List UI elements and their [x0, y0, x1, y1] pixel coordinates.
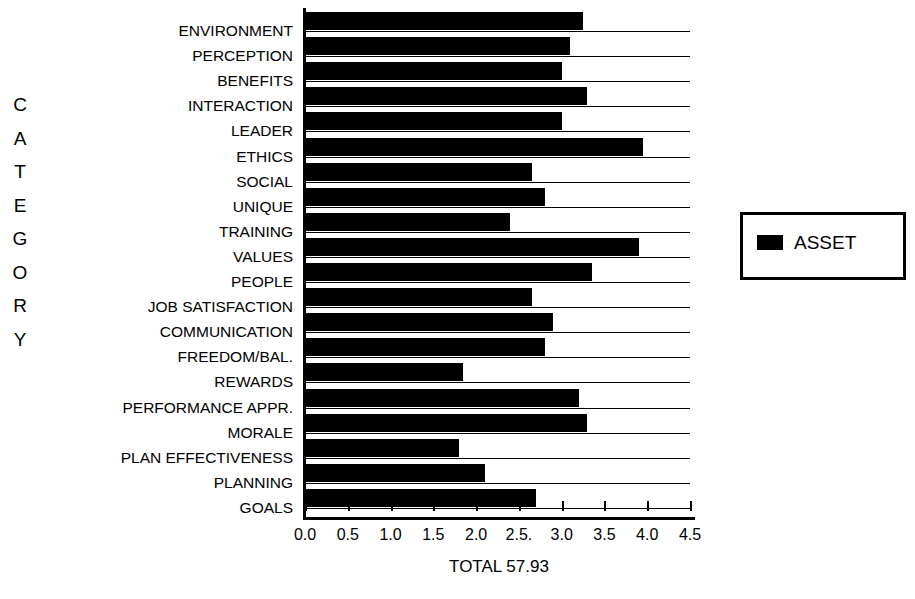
x-axis-tick-label: 2.0 — [465, 526, 487, 544]
bar-baseline — [305, 81, 690, 82]
bar-chart-figure: C A T E G O R Y ENVIRONMENTPERCEPTIONBEN… — [0, 0, 915, 599]
bar-row — [305, 338, 695, 363]
bar-baseline — [305, 106, 690, 107]
y-axis-title-letter: Y — [4, 323, 36, 357]
y-axis-tick-label: PLANNING — [214, 475, 293, 491]
y-axis-tick-label: UNIQUE — [233, 199, 293, 215]
y-axis-title-letter: G — [4, 222, 36, 256]
bar-baseline — [305, 382, 690, 383]
bar-row — [305, 313, 695, 338]
bar-baseline — [305, 257, 690, 258]
x-axis-tick — [604, 501, 606, 511]
bar-row — [305, 464, 695, 489]
bar-asset — [305, 489, 536, 507]
x-axis-tick-label: 4.5 — [679, 526, 701, 544]
bar-asset — [305, 363, 463, 381]
bar-asset — [305, 87, 587, 105]
x-axis-tick-label: 3.0 — [551, 526, 573, 544]
bar-asset — [305, 163, 532, 181]
bar-baseline — [305, 357, 690, 358]
bar-asset — [305, 389, 579, 407]
bar-row — [305, 163, 695, 188]
bar-baseline — [305, 508, 690, 509]
bar-row — [305, 363, 695, 388]
bar-row — [305, 213, 695, 238]
bar-baseline — [305, 207, 690, 208]
x-axis-tick-label: 1.0 — [379, 526, 401, 544]
bar-asset — [305, 263, 592, 281]
x-axis-ticks — [303, 510, 703, 522]
x-axis-tick-label: 1.5 — [422, 526, 444, 544]
y-axis-title-letter: A — [4, 122, 36, 156]
bar-baseline — [305, 458, 690, 459]
bar-row — [305, 12, 695, 37]
bar-baseline — [305, 282, 690, 283]
x-axis-tick-label: 3.5 — [593, 526, 615, 544]
bar-asset — [305, 288, 532, 306]
y-axis-tick-label: PEOPLE — [231, 274, 293, 290]
bar-baseline — [305, 408, 690, 409]
bar-row — [305, 439, 695, 464]
x-axis-tick — [433, 501, 435, 511]
bar-row — [305, 288, 695, 313]
legend-entry: ASSET — [757, 233, 856, 252]
x-axis-tick — [562, 501, 564, 511]
bar-baseline — [305, 56, 690, 57]
bar-row — [305, 37, 695, 62]
y-axis-tick-label: PLAN EFFECTIVENESS — [121, 450, 293, 466]
bar-baseline — [305, 157, 690, 158]
bar-baseline — [305, 31, 690, 32]
x-axis-tick — [305, 501, 307, 511]
bar-asset — [305, 37, 570, 55]
plot-area — [303, 8, 695, 520]
y-axis-tick-label: MORALE — [228, 425, 293, 441]
x-axis-tick-label: 0.0 — [294, 526, 316, 544]
y-axis-tick-label: REWARDS — [214, 374, 293, 390]
bar-row — [305, 87, 695, 112]
y-axis-tick-labels: ENVIRONMENTPERCEPTIONBENEFITSINTERACTION… — [40, 10, 298, 510]
bar-baseline — [305, 182, 690, 183]
y-axis-tick-label: JOB SATISFACTION — [148, 299, 293, 315]
x-axis-tick — [476, 501, 478, 511]
y-axis-tick-label: SOCIAL — [236, 174, 293, 190]
bar-row — [305, 138, 695, 163]
bar-asset — [305, 238, 639, 256]
y-axis-tick-label: GOALS — [240, 500, 293, 516]
x-axis-tick-label: 2.5. — [506, 526, 533, 544]
y-axis-tick-label: PERFORMANCE APPR. — [122, 400, 293, 416]
bar-baseline — [305, 307, 690, 308]
bar-asset — [305, 12, 583, 30]
bar-baseline — [305, 433, 690, 434]
x-axis-tick — [519, 501, 521, 511]
x-axis-tick-label: 0.5 — [337, 526, 359, 544]
legend-swatch-asset — [757, 235, 783, 250]
y-axis-title-letter: C — [4, 88, 36, 122]
bar-row — [305, 263, 695, 288]
bar-row — [305, 238, 695, 263]
bar-asset — [305, 213, 510, 231]
y-axis-title-letter: T — [4, 155, 36, 189]
y-axis-tick-label: ETHICS — [236, 149, 293, 165]
bar-baseline — [305, 332, 690, 333]
bar-asset — [305, 188, 545, 206]
x-axis-tick — [647, 501, 649, 511]
y-axis-tick-label: LEADER — [231, 123, 293, 139]
bar-asset — [305, 439, 459, 457]
y-axis-tick-label: COMMUNICATION — [160, 324, 293, 340]
y-axis-title-letter: R — [4, 289, 36, 323]
y-axis-title: C A T E G O R Y — [4, 88, 36, 356]
bar-row — [305, 62, 695, 87]
x-axis-tick — [391, 501, 393, 511]
bar-row — [305, 414, 695, 439]
x-axis-tick-label: 4.0 — [636, 526, 658, 544]
bar-baseline — [305, 232, 690, 233]
bar-baseline — [305, 483, 690, 484]
bar-row — [305, 188, 695, 213]
y-axis-tick-label: BENEFITS — [217, 73, 293, 89]
y-axis-tick-label: FREEDOM/BAL. — [178, 349, 293, 365]
bar-asset — [305, 338, 545, 356]
bar-baseline — [305, 131, 690, 132]
bar-asset — [305, 112, 562, 130]
legend-label-asset: ASSET — [794, 233, 856, 252]
bar-asset — [305, 62, 562, 80]
